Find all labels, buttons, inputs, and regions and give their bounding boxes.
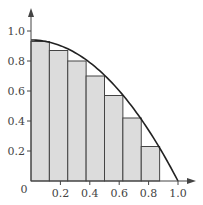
y-tick-label: 1.0	[8, 25, 26, 38]
origin-label: 0	[21, 183, 28, 196]
y-tick-label: 0.2	[8, 145, 26, 158]
bar	[86, 76, 104, 181]
x-tick-label: 0.6	[110, 187, 128, 200]
x-tick-label: 0.2	[52, 187, 70, 200]
y-tick-label: 0.8	[8, 55, 26, 68]
bar	[49, 51, 67, 182]
rectangles	[31, 42, 160, 182]
y-tick-label: 0.4	[8, 115, 26, 128]
bar	[123, 118, 141, 181]
x-tick-label: 0.8	[140, 187, 158, 200]
bar	[68, 61, 86, 181]
y-tick-label: 0.6	[8, 85, 26, 98]
bar	[31, 42, 49, 182]
riemann-sum-chart: 0.20.40.60.81.00.20.40.60.81.00	[0, 0, 203, 205]
bar	[141, 147, 159, 182]
y-axis-arrow-icon	[28, 8, 34, 17]
x-tick-label: 1.0	[169, 187, 187, 200]
x-tick-label: 0.4	[81, 187, 99, 200]
bar	[105, 96, 123, 182]
x-axis-arrow-icon	[187, 178, 196, 184]
